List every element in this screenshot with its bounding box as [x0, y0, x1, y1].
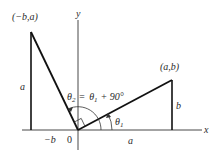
theta1-subscript: 1	[120, 121, 124, 129]
left-height-label: a	[20, 81, 25, 92]
equation-theta-subscript: 1	[94, 96, 98, 104]
left-base-label: −b	[44, 134, 56, 145]
equation-equals: =	[78, 91, 85, 102]
x-axis-label: x	[203, 124, 209, 135]
vector-a-b	[78, 80, 172, 130]
point-label-a-b: (a,b)	[160, 61, 180, 73]
vector-minus-b-a	[31, 32, 78, 130]
theta2-subscript: 2	[72, 96, 76, 104]
y-axis-label: y	[75, 8, 81, 19]
theta2-equation: θ2=θ1+ 90°	[67, 91, 124, 104]
rotation-diagram: x y 0 (−b,a) (a,b) a −b b a θ1 θ2=θ1+ 90…	[0, 0, 218, 156]
theta1-label: θ1	[115, 116, 123, 129]
right-height-label: b	[176, 100, 181, 111]
origin-label: 0	[67, 134, 72, 145]
equation-plus-90: + 90°	[101, 91, 124, 102]
point-label-minus-b-a: (−b,a)	[12, 11, 39, 23]
right-base-label: a	[128, 135, 133, 146]
